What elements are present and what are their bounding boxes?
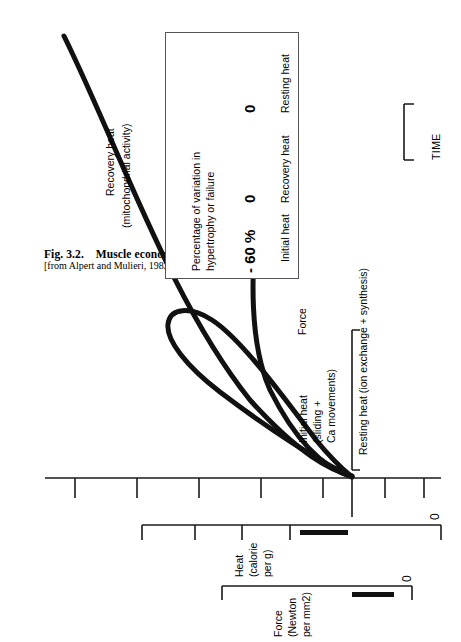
table-row-value-recovery-heat: 0 — [241, 195, 258, 203]
label-initial-heat-line3: Ca movements) — [325, 369, 337, 443]
table-header-line1: Percentage of variation in — [190, 152, 202, 271]
label-force: Force — [296, 308, 308, 335]
origin-label-force: 0 — [400, 575, 414, 582]
label-initial-heat-line2: (sliding + — [311, 401, 323, 443]
label-recovery-heat: Recovery heat — [104, 128, 116, 196]
table-header-line2: hypertrophy or failure — [204, 172, 216, 271]
label-initial-heat-sub1: (sliding + — [311, 401, 323, 443]
label-initial-heat-sub2: Ca movements) — [325, 369, 337, 443]
axis-title-heat-line3: per g) — [261, 550, 273, 577]
axis-title-heat-line2: (calorie — [247, 543, 259, 577]
summary-table: Percentage of variation in hypertrophy o… — [165, 32, 299, 279]
origin-label-heat: 0 — [428, 513, 442, 520]
axis-heat-scale — [142, 525, 441, 540]
axis-title-heat-line1: Heat — [233, 555, 245, 577]
axis-main — [45, 478, 441, 517]
table-row-value-initial-heat: - 60 % — [241, 230, 258, 273]
axis-title-force-line3: per mm2) — [300, 592, 312, 637]
heat-scale-marker — [300, 530, 348, 535]
label-initial-heat-line1: Initial heat — [297, 395, 309, 443]
label-resting-heat-line1: Resting heat (ion exchange + synthesis) — [357, 268, 369, 455]
axis-title-force-line1: Force — [272, 610, 284, 637]
label-recovery-heat-line2: (mitochondrial activity) — [120, 124, 132, 228]
force-scale-marker — [352, 592, 394, 597]
label-recovery-heat-line1: Recovery heat — [104, 128, 116, 196]
figure-canvas: Fig. 3.2. Muscle economy in cardiac hype… — [0, 0, 461, 642]
table-row-label-recovery-heat: Recovery heat — [279, 135, 291, 203]
bracket-time — [404, 104, 414, 160]
label-recovery-heat-sub: (mitochondrial activity) — [120, 124, 132, 228]
label-force-line1: Force — [296, 308, 308, 335]
axis-label-time: TIME — [430, 133, 442, 160]
label-initial-heat: Initial heat — [297, 395, 309, 443]
table-row-label-initial-heat: Initial heat — [279, 214, 291, 262]
table-row-value-resting-heat: 0 — [241, 105, 258, 113]
table-row-label-resting-heat: Resting heat — [279, 54, 291, 113]
label-resting-heat: Resting heat (ion exchange + synthesis) — [357, 268, 369, 455]
axis-title-force-line2: (Newton — [286, 598, 298, 637]
